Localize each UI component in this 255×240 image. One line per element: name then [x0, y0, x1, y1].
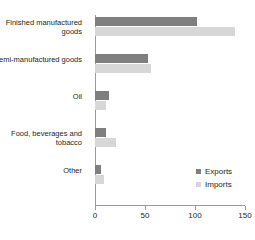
bar-group: Oil: [95, 91, 245, 113]
bar-exports: [95, 165, 101, 174]
legend-item-imports: Imports: [196, 179, 232, 190]
x-axis-tick-label: 100: [188, 211, 201, 221]
x-axis-tick: [145, 206, 146, 210]
bar-group: Semi-manufactured goods: [95, 54, 245, 76]
x-axis-tick: [195, 206, 196, 210]
x-axis-line: [95, 205, 245, 206]
category-label: Food, beverages and tobacco: [0, 129, 82, 147]
bar-imports: [95, 138, 116, 147]
bar-imports: [95, 175, 104, 184]
chart-legend: Exports Imports: [196, 166, 232, 192]
category-label: Finished manufactured goods: [0, 18, 82, 36]
x-axis-tick-label: 50: [141, 211, 150, 221]
bar-imports: [95, 101, 106, 110]
bar-chart: 050100150 Finished manufactured goodsSem…: [0, 0, 255, 240]
legend-label-exports: Exports: [205, 167, 232, 176]
category-label: Other: [0, 166, 82, 175]
category-label: Semi-manufactured goods: [0, 55, 82, 64]
bar-group: Food, beverages and tobacco: [95, 128, 245, 150]
bar-exports: [95, 54, 148, 63]
bar-imports: [95, 64, 151, 73]
x-axis-tick-label: 150: [238, 211, 251, 221]
x-axis-tick: [95, 206, 96, 210]
bar-exports: [95, 91, 109, 100]
legend-swatch-imports: [196, 182, 201, 187]
bar-imports: [95, 27, 235, 36]
x-axis-tick: [245, 206, 246, 210]
bar-exports: [95, 128, 106, 137]
bar-group: Finished manufactured goods: [95, 17, 245, 39]
bar-exports: [95, 17, 197, 26]
category-label: Oil: [0, 92, 82, 101]
legend-item-exports: Exports: [196, 166, 232, 177]
x-axis-tick-label: 0: [93, 211, 97, 221]
legend-swatch-exports: [196, 169, 201, 174]
legend-label-imports: Imports: [205, 180, 232, 189]
